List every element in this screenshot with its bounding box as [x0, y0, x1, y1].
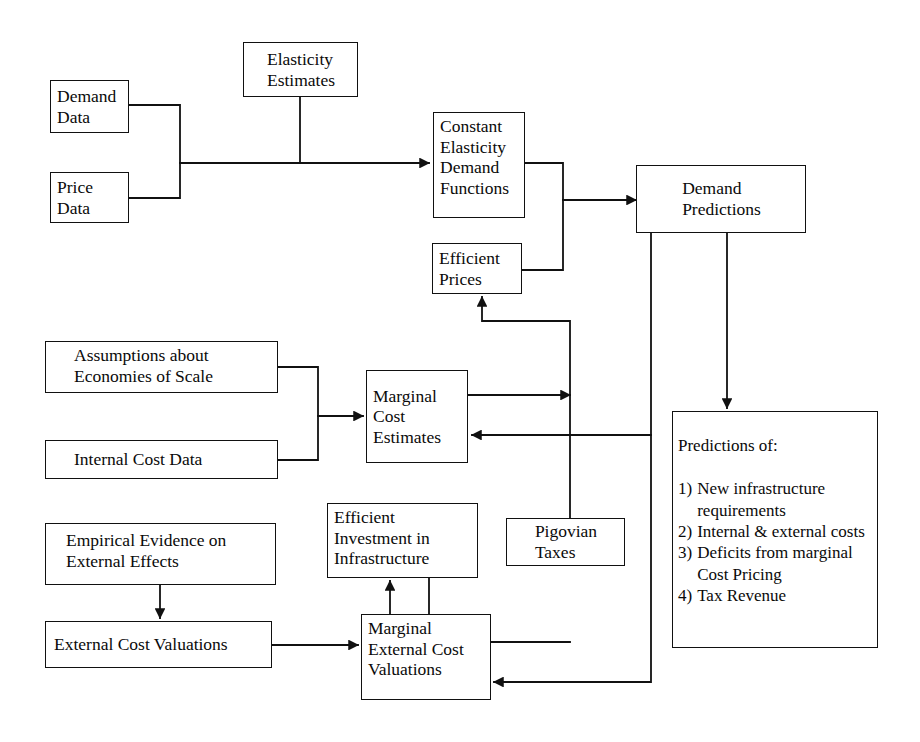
prediction-item: 3)Deficits from marginal Cost Pricing [678, 542, 873, 585]
edge-assumptions-to-bus [278, 367, 318, 416]
node-demand-predictions[interactable]: Demand Predictions [636, 165, 806, 233]
prediction-item: 1)New infrastructure requirements [678, 478, 873, 521]
flowchart-canvas: Demand Data Price Data Elasticity Estima… [0, 0, 920, 742]
edge-internal-cost-to-bus [278, 416, 318, 460]
node-predictions-of[interactable]: Predictions of: 1)New infrastructure req… [672, 411, 878, 648]
node-empirical-evidence-external-effects[interactable]: Empirical Evidence on External Effects [45, 523, 276, 585]
edge-pigovian-bus-up-to-efficient-prices [482, 297, 570, 518]
node-external-cost-valuations[interactable]: External Cost Valuations [45, 621, 272, 668]
prediction-item-text: New infrastructure requirements [697, 478, 873, 521]
node-pigovian-taxes[interactable]: Pigovian Taxes [506, 518, 625, 566]
edge-demand-data-to-bus [128, 105, 180, 163]
edge-price-data-to-bus [128, 163, 180, 198]
prediction-item: 2)Internal & external costs [678, 521, 873, 542]
prediction-item: 4)Tax Revenue [678, 585, 873, 606]
prediction-item-number: 1) [678, 478, 692, 521]
node-marginal-external-cost-valuations[interactable]: Marginal External Cost Valuations [361, 614, 491, 700]
prediction-item-number: 4) [678, 585, 692, 606]
prediction-item-text: Tax Revenue [697, 585, 873, 606]
node-elasticity-estimates[interactable]: Elasticity Estimates [243, 42, 358, 97]
node-efficient-investment-infrastructure[interactable]: Efficient Investment in Infrastructure [327, 503, 478, 578]
prediction-item-text: Internal & external costs [697, 521, 873, 542]
node-efficient-prices[interactable]: Efficient Prices [432, 243, 522, 294]
edge-efficient-prices-to-merge [522, 200, 563, 270]
predictions-list: 1)New infrastructure requirements2)Inter… [678, 478, 873, 606]
node-assumptions-economies-of-scale[interactable]: Assumptions about Economies of Scale [45, 341, 278, 393]
prediction-item-number: 2) [678, 521, 692, 542]
edge-constant-elasticity-to-merge [525, 163, 563, 200]
node-price-data[interactable]: Price Data [50, 172, 129, 223]
node-internal-cost-data[interactable]: Internal Cost Data [45, 440, 278, 479]
node-marginal-cost-estimates[interactable]: Marginal Cost Estimates [366, 370, 468, 463]
prediction-item-number: 3) [678, 542, 692, 585]
node-demand-data[interactable]: Demand Data [50, 80, 129, 133]
prediction-item-text: Deficits from marginal Cost Pricing [697, 542, 873, 585]
predictions-heading: Predictions of: [678, 435, 873, 456]
node-constant-elasticity-demand-functions[interactable]: Constant Elasticity Demand Functions [433, 112, 525, 218]
